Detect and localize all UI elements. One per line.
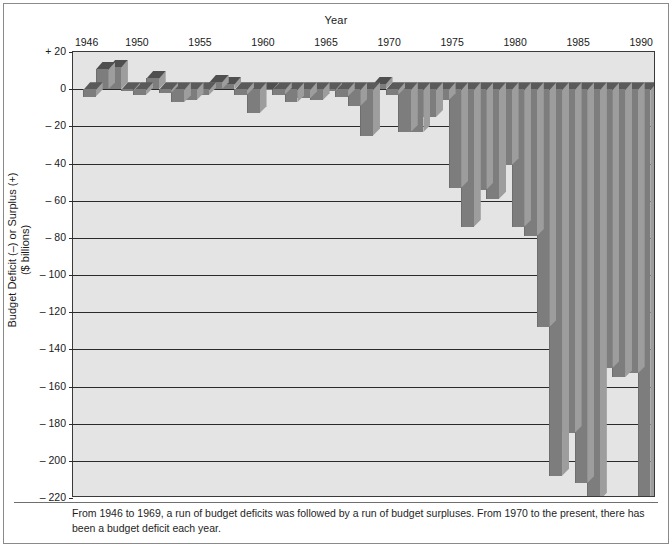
y-tick-label: + 20	[6, 45, 66, 57]
bar-side-face	[625, 82, 632, 377]
bar-side-face	[411, 82, 418, 132]
bar-front-face	[449, 89, 462, 187]
y-tick-label: – 200	[6, 454, 66, 466]
bar-front-face	[133, 89, 146, 95]
bar-front-face	[121, 89, 134, 91]
bar-side-face	[373, 82, 380, 135]
bar-front-face	[272, 89, 285, 95]
y-tick-label: – 100	[6, 268, 66, 280]
budget-deficit-figure: Year Budget Deficit (–) or Surplus (+) (…	[0, 0, 672, 547]
bar-side-face	[575, 82, 582, 433]
bar-side-face	[549, 82, 556, 327]
y-tick-label: – 140	[6, 342, 66, 354]
bar-side-face	[486, 82, 493, 189]
bar-series	[73, 52, 654, 496]
x-tick-label: 1950	[125, 36, 148, 48]
plot-area: 1946195019551960196519701975198019851990	[72, 51, 655, 497]
x-tick-label: 1965	[314, 36, 337, 48]
y-tick-label: – 160	[6, 380, 66, 392]
bar-side-face	[537, 82, 544, 236]
y-tick-label: 0	[6, 82, 66, 94]
bar-side-face	[423, 82, 430, 132]
y-tick-label: – 120	[6, 305, 66, 317]
bar-front-face	[159, 89, 172, 93]
bar-front-face	[234, 89, 247, 95]
bar-side-face	[562, 82, 569, 476]
y-tick-label: – 60	[6, 194, 66, 206]
bar-front-face	[398, 89, 411, 132]
bar-side-face	[474, 82, 481, 227]
x-tick-label: 1960	[251, 36, 274, 48]
bar-side-face	[461, 82, 468, 187]
x-tick-label: 1955	[188, 36, 211, 48]
bar-side-face	[512, 82, 519, 165]
bar-side-face	[587, 82, 594, 483]
bar-front-face	[171, 89, 184, 102]
y-tick-label: – 40	[6, 157, 66, 169]
y-tick-label: – 80	[6, 231, 66, 243]
figure-caption: From 1946 to 1969, a run of budget defic…	[72, 506, 650, 536]
bar-side-face	[650, 82, 654, 496]
bar-side-face	[638, 82, 645, 373]
x-tick-label: 1975	[440, 36, 463, 48]
bar-side-face	[524, 82, 531, 227]
bar-side-face	[600, 82, 607, 496]
x-tick-label: 1990	[629, 36, 652, 48]
x-tick-label: 1946	[75, 36, 98, 48]
x-axis-title: Year	[0, 14, 672, 26]
y-tick-label: – 20	[6, 119, 66, 131]
x-tick-label: 1980	[503, 36, 526, 48]
bar-side-face	[612, 82, 619, 368]
bar-front-face	[83, 89, 96, 96]
y-tick-mark	[69, 498, 73, 499]
y-tick-label: – 180	[6, 417, 66, 429]
x-tick-label: 1985	[566, 36, 589, 48]
x-tick-label: 1970	[377, 36, 400, 48]
bar-side-face	[499, 82, 506, 199]
bar-front-face	[335, 89, 348, 96]
bar-front-face	[386, 89, 399, 95]
caption-divider	[14, 502, 658, 503]
